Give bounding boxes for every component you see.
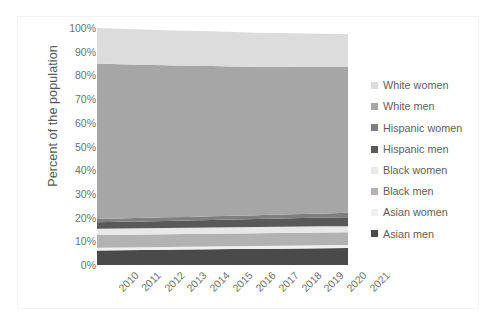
x-axis-tick-label: 2014 [207, 269, 232, 294]
legend-item-black-men[interactable]: Black men [371, 181, 491, 202]
x-axis-tick-label: 2012 [161, 269, 186, 294]
area-series-black-men [97, 232, 348, 247]
legend-swatch-icon [371, 124, 378, 131]
y-axis-tick-label: 20% [46, 212, 96, 224]
legend-item-label: White women [383, 80, 448, 91]
legend-item-asian-women[interactable]: Asian women [371, 202, 491, 223]
chart-legend: White womenWhite menHispanic womenHispan… [371, 75, 491, 245]
y-axis-tick-labels: 100%90%80%70%60%50%40%30%20%10%0% [46, 28, 96, 275]
area-series-white-women [97, 28, 348, 67]
x-axis-tick-labels: 2010201120122013201420152016201720182019… [97, 267, 348, 313]
legend-item-label: White men [383, 101, 435, 112]
legend-item-label: Black women [383, 165, 447, 176]
legend-swatch-icon [371, 230, 378, 237]
x-axis-tick-label: 2021 [367, 269, 392, 294]
legend-swatch-icon [371, 167, 378, 174]
legend-swatch-icon [371, 82, 378, 89]
legend-item-label: Black men [383, 186, 433, 197]
x-axis-tick-label: 2015 [230, 269, 255, 294]
legend-swatch-icon [371, 103, 378, 110]
legend-item-label: Asian men [383, 229, 434, 240]
legend-item-hispanic-men[interactable]: Hispanic men [371, 139, 491, 160]
x-axis-tick-label: 2017 [276, 269, 301, 294]
stacked-area-plot [97, 28, 348, 265]
y-axis-tick-label: 80% [46, 69, 96, 81]
legend-item-black-women[interactable]: Black women [371, 160, 491, 181]
legend-item-label: Asian women [383, 207, 448, 218]
legend-item-label: Hispanic men [383, 144, 448, 155]
y-axis-tick-label: 60% [46, 117, 96, 129]
x-axis-tick-label: 2020 [344, 269, 369, 294]
x-axis-tick-label: 2016 [253, 269, 278, 294]
x-axis-tick-label: 2010 [116, 269, 141, 294]
chart-figure: Percent of the population 100%90%80%70%6… [0, 0, 497, 326]
x-axis-tick-label: 2013 [184, 269, 209, 294]
y-axis-tick-label: 90% [46, 46, 96, 58]
legend-item-white-men[interactable]: White men [371, 96, 491, 117]
y-axis-tick-label: 100% [46, 22, 96, 34]
legend-swatch-icon [371, 209, 378, 216]
legend-swatch-icon [371, 146, 378, 153]
area-series-white-men [97, 64, 348, 219]
legend-item-label: Hispanic women [383, 123, 462, 134]
y-axis-tick-label: 70% [46, 93, 96, 105]
legend-swatch-icon [371, 188, 378, 195]
legend-item-white-women[interactable]: White women [371, 75, 491, 96]
y-axis-tick-label: 30% [46, 188, 96, 200]
y-axis-tick-label: 0% [46, 259, 96, 271]
x-axis-tick-label: 2011 [138, 269, 162, 293]
y-axis-tick-label: 10% [46, 235, 96, 247]
x-axis-tick-label: 2018 [298, 269, 323, 294]
y-axis-tick-label: 50% [46, 141, 96, 153]
y-axis-tick-label: 40% [46, 164, 96, 176]
legend-item-asian-men[interactable]: Asian men [371, 223, 491, 244]
legend-item-hispanic-women[interactable]: Hispanic women [371, 117, 491, 138]
x-axis-tick-label: 2019 [321, 269, 346, 294]
area-series-asian-men [97, 248, 348, 265]
figure-frame: Percent of the population 100%90%80%70%6… [17, 16, 479, 309]
